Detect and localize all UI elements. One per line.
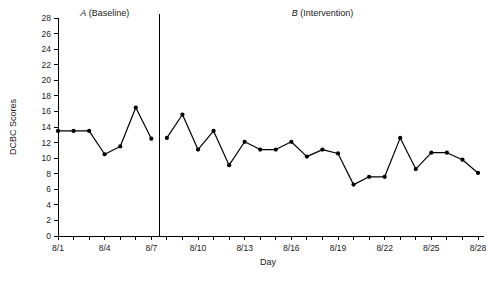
- x-axis-title: Day: [260, 257, 277, 267]
- data-point: [243, 140, 247, 144]
- data-point: [118, 144, 122, 148]
- y-axis-tick-label: 6: [46, 184, 51, 194]
- dcbc-scores-chart: 0246810121416182022242628DCBC Scores8/18…: [0, 0, 494, 282]
- y-axis-tick-label: 18: [42, 91, 52, 101]
- data-point: [383, 175, 387, 179]
- data-point: [336, 151, 340, 155]
- x-axis-tick-label: 8/22: [376, 243, 393, 253]
- data-point: [258, 147, 262, 151]
- y-axis-tick-label: 10: [42, 153, 52, 163]
- phase-letter-A: A: [79, 8, 86, 18]
- y-axis-tick-label: 24: [42, 44, 52, 54]
- data-point: [367, 175, 371, 179]
- data-point: [211, 129, 215, 133]
- x-axis-tick-label: 8/1: [52, 243, 64, 253]
- y-axis-tick-label: 20: [42, 75, 52, 85]
- data-point: [320, 147, 324, 151]
- x-axis-tick-label: 8/4: [99, 243, 111, 253]
- x-axis-tick-label: 8/13: [236, 243, 253, 253]
- phase-name-B: (Intervention): [298, 8, 354, 18]
- data-point: [398, 136, 402, 140]
- data-point: [351, 183, 355, 187]
- phase-label-B: B (Intervention): [292, 8, 354, 18]
- y-axis-tick-label: 16: [42, 106, 52, 116]
- x-axis-tick-label: 8/25: [423, 243, 440, 253]
- phase-name-A: (Baseline): [86, 8, 129, 18]
- y-axis-title: DCBC Scores: [8, 98, 18, 155]
- y-axis-tick-label: 26: [42, 29, 52, 39]
- data-point: [180, 112, 184, 116]
- y-axis-tick-label: 0: [46, 231, 51, 241]
- data-point: [289, 140, 293, 144]
- data-point: [460, 158, 464, 162]
- data-point: [71, 129, 75, 133]
- data-point: [196, 147, 200, 151]
- data-point: [445, 151, 449, 155]
- y-axis-tick-label: 12: [42, 138, 52, 148]
- data-point: [165, 136, 169, 140]
- data-point: [87, 129, 91, 133]
- y-axis-tick-label: 14: [42, 122, 52, 132]
- data-point: [134, 105, 138, 109]
- x-axis-tick-label: 8/16: [283, 243, 300, 253]
- x-axis-tick-label: 8/10: [190, 243, 207, 253]
- data-point: [414, 167, 418, 171]
- data-point: [56, 129, 60, 133]
- phase-label-A: A (Baseline): [79, 8, 129, 18]
- data-point: [429, 151, 433, 155]
- y-axis-tick-label: 4: [46, 200, 51, 210]
- y-axis-tick-label: 22: [42, 60, 52, 70]
- data-point: [476, 171, 480, 175]
- data-point: [149, 137, 153, 141]
- y-axis-tick-label: 28: [42, 13, 52, 23]
- data-point: [103, 152, 107, 156]
- data-point: [227, 163, 231, 167]
- x-axis-tick-label: 8/28: [470, 243, 487, 253]
- data-point: [274, 147, 278, 151]
- y-axis-tick-label: 2: [46, 215, 51, 225]
- x-axis-tick-label: 8/19: [330, 243, 347, 253]
- y-axis-tick-label: 8: [46, 169, 51, 179]
- chart-canvas: 0246810121416182022242628DCBC Scores8/18…: [0, 0, 494, 282]
- x-axis-tick-label: 8/7: [145, 243, 157, 253]
- data-point: [305, 154, 309, 158]
